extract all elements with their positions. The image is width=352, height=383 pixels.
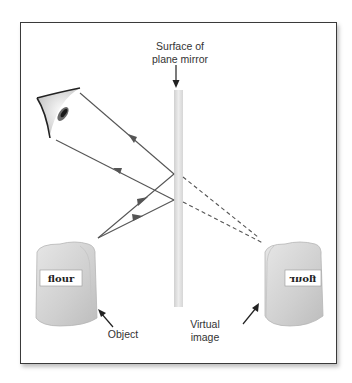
object-pointer-arrow-icon — [98, 309, 113, 327]
virtual-label-line1: Virtual — [180, 318, 230, 331]
incident-rays — [98, 174, 174, 238]
mirror-pointer-arrow-icon — [173, 65, 180, 88]
virtual-image-pointer-arrow-icon — [243, 303, 259, 324]
mirror-label: Surface of plane mirror — [140, 40, 220, 66]
virtual-ray-extensions — [183, 177, 263, 243]
object-bag-text: flour — [48, 273, 75, 284]
mirror-label-line2: plane mirror — [140, 53, 220, 66]
mirror-label-line1: Surface of — [140, 40, 220, 53]
virtual-image-flour-bag: flour — [265, 242, 323, 326]
plane-mirror — [174, 90, 183, 307]
eye-icon — [37, 88, 80, 138]
object-label: Object — [98, 328, 148, 341]
object-flour-bag: flour — [36, 242, 97, 326]
incident-ray-arrow-icon — [132, 197, 148, 221]
reflected-rays — [56, 93, 174, 200]
virtual-label-line2: image — [180, 331, 230, 344]
reflected-ray-arrow-icon — [113, 134, 137, 174]
virtual-bag-text: flour — [289, 273, 316, 284]
virtual-image-label: Virtual image — [180, 318, 230, 344]
